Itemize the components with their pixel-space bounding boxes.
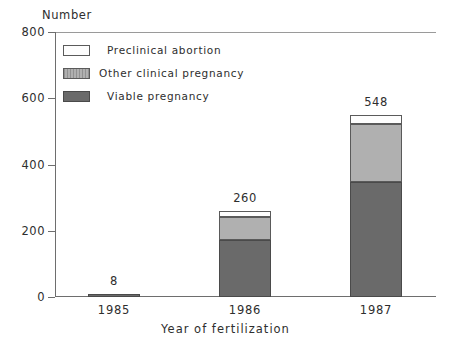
bar-value-label-1987: 548: [364, 95, 388, 109]
y-tick-label-0: 0: [5, 290, 45, 304]
y-tick-label-800: 800: [5, 25, 45, 39]
bar-segment-preclinical-1986[interactable]: [219, 211, 271, 217]
y-tick-label-200: 200: [5, 224, 45, 238]
bar-segment-other-1986[interactable]: [219, 217, 271, 240]
legend-label-preclinical-abortion: Preclinical abortion: [107, 44, 221, 56]
x-tick-label-1987: 1987: [360, 303, 392, 317]
y-tick-mark-600: [48, 98, 55, 99]
bar-segment-viable-1986[interactable]: [219, 240, 271, 297]
legend-swatch-gray-hatched-icon: [63, 68, 90, 79]
legend-swatch-white-icon: [63, 45, 90, 56]
y-tick-label-600: 600: [5, 91, 45, 105]
legend-label-other-clinical-pregnancy: Other clinical pregnancy: [99, 67, 244, 79]
y-tick-label-400: 400: [5, 158, 45, 172]
y-axis-title: Number: [42, 8, 92, 22]
bar-segment-preclinical-1987[interactable]: [350, 115, 402, 123]
bar-1987[interactable]: 548: [350, 32, 402, 297]
y-tick-mark-400: [48, 165, 55, 166]
bar-value-label-1985: 8: [110, 274, 118, 288]
bar-segment-viable-1987[interactable]: [350, 182, 402, 297]
legend-label-viable-pregnancy: Viable pregnancy: [107, 90, 210, 102]
legend-swatch-dark-gray-icon: [63, 91, 90, 102]
bar-segment-other-1987[interactable]: [350, 124, 402, 182]
x-tick-label-1986: 1986: [229, 303, 261, 317]
stacked-bar-chart: Number 800 600 400 200 0 8 260 548: [0, 0, 451, 350]
y-tick-mark-200: [48, 231, 55, 232]
bar-segment-viable-1985[interactable]: [88, 294, 140, 297]
y-tick-mark-0: [48, 297, 55, 298]
y-tick-mark-800: [48, 32, 55, 33]
x-tick-label-1985: 1985: [98, 303, 130, 317]
bar-value-label-1986: 260: [233, 191, 257, 205]
x-axis-title: Year of fertilization: [0, 322, 451, 336]
hatch-pattern-icon: [64, 69, 89, 78]
